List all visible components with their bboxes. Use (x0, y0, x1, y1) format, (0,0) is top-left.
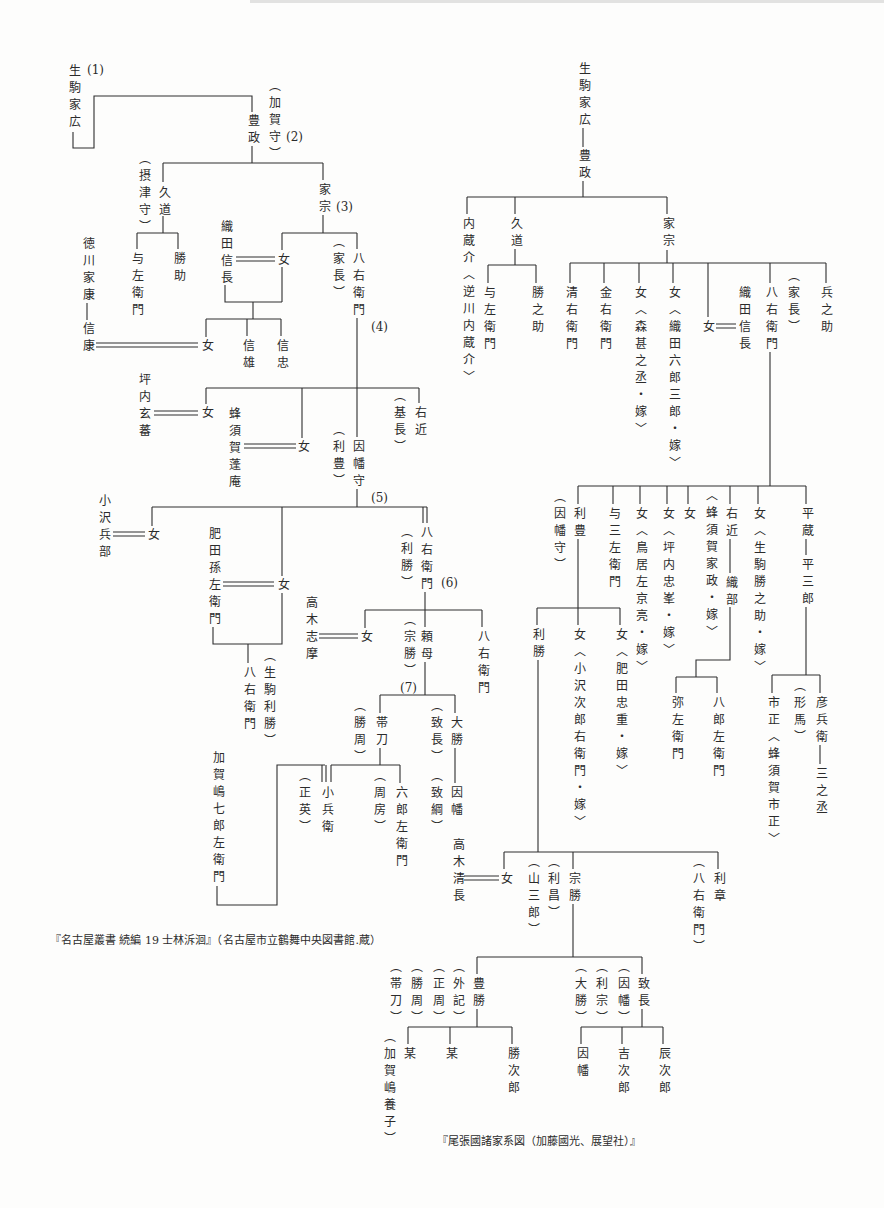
node-hachiemon-2: 八右衛門 (418, 526, 432, 594)
adoption-double-line (322, 765, 326, 782)
node-hachiemon-alias: （家長） (785, 269, 799, 337)
node-hisamichi: 久道 (156, 186, 170, 220)
node-kinemon: 金右衛門 (597, 286, 611, 354)
node-hisamichi-title: （摂津守） (136, 152, 150, 237)
node-sannojo: 三之丞 (813, 767, 827, 818)
node-tokugawa-ieyasu: 徳川家康 (80, 237, 94, 305)
node-toshikatsu: 利勝 (530, 628, 544, 662)
node-daughter-oda: 女〈織田六郎三郎・嫁〉 (666, 286, 680, 473)
node-ozawa-hyobu: 小沢兵部 (96, 494, 110, 562)
node-tatsujiro: 辰次郎 (656, 1047, 670, 1098)
right-source-caption: 『尾張國諸家系図（加藤國光、展望社）』 (437, 1135, 641, 1149)
node-hikobee: 彦兵衛 (813, 696, 827, 747)
node-seiemon: 清右衛門 (563, 286, 577, 354)
node-daughter-torii: 女〈鳥居左京亮・嫁〉 (633, 507, 647, 677)
node-ukon: 右近 (723, 507, 737, 541)
descent-line (504, 660, 718, 869)
generation-marker: (6) (441, 576, 458, 590)
descent-line (73, 96, 252, 148)
node-takagi-shima: 高木志摩 (303, 596, 317, 664)
node-hyonosuke: 兵之助 (818, 286, 832, 337)
node-toshitoyo-alias: （因幡守） (551, 490, 565, 575)
node-kagashima: 加賀嶋七郎左衛門 (210, 751, 224, 887)
node-toyomasa-title: （加賀守） (266, 79, 280, 164)
node-inaba-alias: （致綱） (428, 769, 442, 837)
node-daisho-alias: （致長） (428, 699, 442, 767)
node-ukon: 右近 (412, 406, 426, 440)
node-rokurozaemon: 六郎左衛門 (393, 786, 407, 871)
descent-line (282, 215, 357, 250)
node-tsubouchi-genba: 坪内玄蕃 (136, 373, 150, 441)
node-hachiemon-hida: 八右衛門 (241, 666, 255, 734)
descent-line (467, 181, 667, 214)
node-daughter-ozawa: 女〈小沢次郎右衛門・嫁〉 (571, 628, 585, 832)
node-heizo: 平蔵 (799, 507, 813, 541)
descent-line (488, 249, 536, 283)
generation-marker: (7) (400, 681, 417, 695)
node-hachiemon-2-alias: （利勝） (398, 525, 412, 593)
node-hachiemon-1-alias: （家長） (330, 235, 344, 303)
node-tanomo-alias: （宗勝） (401, 613, 415, 681)
node-daughter-hida: 女〈肥田忠重・嫁〉 (613, 628, 627, 781)
generation-marker: (5) (371, 491, 388, 505)
node-kuranosuke: 内蔵介〈逆川内蔵介〉 (460, 217, 474, 387)
descent-line (331, 748, 400, 783)
generation-marker: (3) (336, 200, 353, 214)
succession-double-line (423, 507, 427, 523)
marriage-double-line (113, 532, 145, 536)
node-katsunosuke: 勝之助 (529, 286, 543, 337)
node-toshitoyo: 利豊 (571, 507, 585, 541)
node-hachiemon-hida-alias: （生駒利勝） (261, 649, 275, 751)
node-munenaga-alias-3: （大勝） (572, 960, 586, 1028)
node-munekatsu: 宗勝 (566, 872, 580, 906)
left-tree-lines (73, 96, 482, 905)
node-inaba: 因幡 (574, 1047, 588, 1081)
node-ikoma-iehiro: 生駒家広 (576, 62, 590, 130)
node-tatewaki: 帯刀 (373, 716, 387, 750)
node-oda-nobunaga: 織田信長 (736, 286, 750, 354)
node-tanomo: 頼母 (418, 630, 432, 664)
node-toyokatsu-alias-3: （勝周） (408, 960, 422, 1028)
node-nobuyasu: 信康 (80, 322, 94, 356)
node-hachiemon-1: 八右衛門 (350, 252, 364, 320)
node-toshiaki: 利章 (711, 872, 725, 906)
node-inaba: 因幡 (448, 786, 462, 820)
node-nobutada: 信忠 (274, 339, 288, 373)
node-daughter-hachisuka-note: 〈蜂須賀家政・嫁〉 (703, 489, 717, 642)
node-inaba-no-kami: 因幡守 (350, 440, 364, 491)
node-hida-magozaemon: 肥田孫左衛門 (206, 527, 220, 629)
node-munenaga-alias-2: （利宗） (593, 960, 607, 1028)
node-ienaga-daughter-1: 女 (199, 406, 213, 423)
node-nobukatsu: 信雄 (240, 339, 254, 373)
node-rokurozaemon-alias: （周房） (371, 769, 385, 837)
generation-marker: (2) (286, 130, 303, 144)
node-daughter-nobunaga-wife: 女 (700, 320, 714, 337)
node-bo-2: 某 (443, 1047, 457, 1064)
marriage-double-line (716, 324, 736, 328)
node-hachiemon-3: 八右衛門 (475, 630, 489, 698)
node-munenaga: 致長 (635, 977, 649, 1011)
node-toshitoyo-daughter-1: 女 (145, 528, 159, 545)
node-hachirozaemon: 八郎左衛門 (710, 696, 724, 781)
marriage-double-line (154, 411, 198, 415)
node-toshiaki-alias: （八右衛門） (690, 855, 704, 957)
node-munekatsu-alias-1: （利昌） (545, 855, 559, 923)
node-toyokatsu-alias-4: （帯刀） (387, 960, 401, 1028)
node-ienaga-daughter-2: 女 (295, 440, 309, 457)
marriage-double-line (96, 343, 198, 347)
node-bo-1-alias: （加賀嶋養子） (381, 1030, 395, 1149)
node-toyomasa: 豊政 (245, 114, 259, 148)
node-hisamichi: 久道 (508, 217, 522, 251)
node-takagi-kiyonaga: 高木清長 (450, 838, 464, 906)
marriage-double-line (319, 634, 358, 638)
descent-line (163, 146, 323, 182)
node-munenaga-alias-1: （因幡） (615, 960, 629, 1028)
node-toyokatsu: 豊勝 (470, 977, 484, 1011)
node-toyokatsu-alias-2: （正周） (430, 960, 444, 1028)
marriage-double-line (236, 257, 275, 261)
left-source-caption: 『名古屋叢書 続編 19 士林泝洄』（名古屋市立鶴舞中央図書館.蔵） (50, 934, 381, 948)
node-kohyoe-alias: （正英） (296, 769, 310, 837)
node-yozaemon: 与左衛門 (129, 252, 143, 320)
generation-marker: (1) (87, 63, 104, 77)
node-heizaburo: 平三郎 (799, 558, 813, 609)
